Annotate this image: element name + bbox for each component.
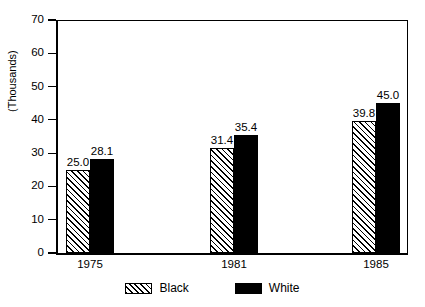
bar-value-label-1981-white: 35.4	[229, 121, 263, 133]
y-tick-20	[48, 186, 56, 187]
y-axis-title: (Thousands)	[6, 96, 18, 112]
bar-1975-black	[66, 170, 90, 253]
x-tick-label-1985: 1985	[351, 258, 401, 271]
bar-chart: (Thousands) 010203040506070 25.028.131.4…	[0, 0, 425, 307]
y-tick-10	[48, 219, 56, 220]
y-tick-40	[48, 119, 56, 120]
y-tick-70	[48, 19, 56, 20]
legend-item-white[interactable]: White	[235, 282, 300, 295]
y-tick-label-30: 30	[18, 147, 44, 158]
y-tick-label-0: 0	[18, 247, 44, 258]
y-axis-line	[56, 20, 58, 255]
legend-label-black: Black	[159, 282, 188, 295]
x-axis-line	[56, 253, 408, 255]
legend: BlackWhite	[0, 282, 425, 295]
y-tick-label-10: 10	[18, 214, 44, 225]
y-tick-50	[48, 86, 56, 87]
legend-swatch-white	[235, 283, 262, 294]
bar-1981-white	[234, 135, 258, 253]
y-tick-label-20: 20	[18, 180, 44, 191]
bar-1981-black	[210, 148, 234, 253]
x-tick-label-1981: 1981	[209, 258, 259, 271]
x-tick-label-1975: 1975	[65, 258, 115, 271]
bar-value-label-1985-white: 45.0	[371, 89, 405, 101]
legend-swatch-black	[125, 283, 152, 294]
y-tick-30	[48, 153, 56, 154]
y-tick-0	[48, 252, 56, 253]
y-tick-label-70: 70	[18, 14, 44, 25]
y-tick-60	[48, 53, 56, 54]
bar-value-label-1975-white: 28.1	[85, 145, 119, 157]
y-tick-label-60: 60	[18, 47, 44, 58]
y-tick-label-40: 40	[18, 114, 44, 125]
y-tick-label-50: 50	[18, 81, 44, 92]
bar-1975-white	[90, 159, 114, 253]
bar-1985-white	[376, 103, 400, 253]
legend-item-black[interactable]: Black	[125, 282, 188, 295]
legend-label-white: White	[269, 282, 300, 295]
bar-1985-black	[352, 121, 376, 253]
